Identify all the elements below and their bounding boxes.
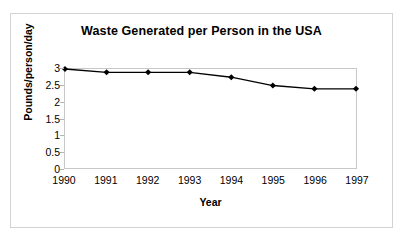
y-tick-label: 0.5 [45, 146, 60, 158]
y-axis-tick-labels: 00.511.522.53 [33, 68, 60, 169]
y-tick-mark [60, 85, 64, 86]
x-tick-label: 1995 [262, 174, 285, 186]
data-point-marker [228, 74, 234, 80]
y-tick-label: 1.5 [45, 113, 60, 125]
x-axis-title: Year [64, 196, 357, 208]
data-point-marker [103, 69, 109, 75]
data-point-marker [270, 82, 276, 88]
x-tick-label: 1997 [345, 174, 368, 186]
chart-title: Waste Generated per Person in the USA [11, 24, 392, 38]
plot-area [64, 68, 357, 169]
chart-frame: Waste Generated per Person in the USA Po… [10, 13, 393, 228]
data-point-marker [353, 86, 359, 92]
y-tick-mark [60, 102, 64, 103]
y-tick-mark [60, 152, 64, 153]
data-point-marker [145, 69, 151, 75]
data-point-marker [187, 69, 193, 75]
x-tick-label: 1994 [220, 174, 243, 186]
data-point-marker [62, 66, 68, 72]
x-tick-label: 1993 [178, 174, 201, 186]
y-tick-mark [60, 169, 64, 170]
y-tick-mark [60, 68, 64, 69]
x-tick-label: 1991 [94, 174, 117, 186]
y-tick-mark [60, 135, 64, 136]
data-point-marker [311, 86, 317, 92]
y-tick-mark [60, 119, 64, 120]
data-series-svg [65, 69, 356, 168]
series-markers [62, 66, 359, 92]
x-tick-label: 1990 [52, 174, 75, 186]
x-tick-label: 1992 [136, 174, 159, 186]
x-axis-tick-labels: 19901991199219931994199519961997 [64, 174, 357, 190]
x-tick-label: 1996 [303, 174, 326, 186]
y-tick-label: 2.5 [45, 79, 60, 91]
